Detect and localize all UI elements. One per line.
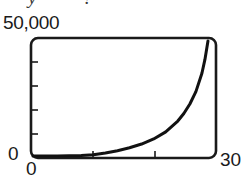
x-axis-max-label: 30 (220, 149, 241, 171)
y-axis-min-label: 0 (8, 143, 19, 165)
x-axis-min-label: 0 (26, 158, 37, 180)
plot-frame (31, 38, 216, 158)
figure-container: y = ? 50,000 0 0 30 (0, 0, 249, 187)
y-axis-max-label: 50,000 (3, 12, 59, 34)
